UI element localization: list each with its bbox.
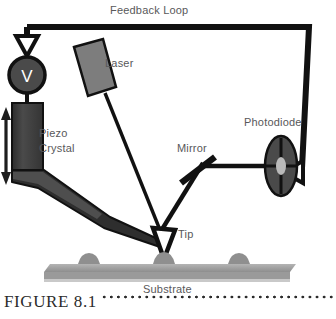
figure-caption-row: FIGURE 8.1 (4, 292, 336, 316)
substrate-slab-edge (44, 279, 290, 282)
piezo-crystal-label-line2: Crystal (39, 142, 75, 154)
figure-caption-leader-dots (102, 290, 336, 304)
substrate-bump-center (153, 252, 175, 264)
piezo-motion-arrow-head-up (1, 107, 11, 120)
figure-container: Feedback Loop V (0, 0, 336, 319)
feedback-arrowhead-down-icon (16, 36, 38, 56)
mirror-label: Mirror (177, 142, 207, 154)
piezo-crystal-body (12, 103, 43, 175)
voltage-source-group: V (9, 57, 45, 103)
mirror-group (181, 157, 215, 183)
substrate-slab-top (44, 264, 296, 272)
piezo-motion-arrow-icon (1, 107, 11, 185)
substrate-group (44, 252, 296, 282)
photodiode-label: Photodiode (244, 116, 302, 128)
photodiode-active-spot (276, 157, 286, 175)
mirror-surface (181, 157, 215, 183)
cantilever-group (12, 170, 160, 247)
piezo-motion-arrow-head-down (1, 172, 11, 185)
substrate-bump-right (228, 253, 250, 264)
feedback-loop-label: Feedback Loop (110, 4, 188, 16)
substrate-bump-left (78, 253, 100, 264)
piezo-crystal-label-line1: Piezo (39, 127, 68, 139)
substrate-slab-front (44, 272, 290, 279)
figure-caption-label: FIGURE 8.1 (4, 292, 97, 312)
photodiode-group (265, 136, 297, 196)
afm-schematic-diagram: Feedback Loop V (0, 0, 336, 319)
voltage-symbol-label: V (21, 67, 33, 86)
laser-incident-beam (105, 93, 160, 230)
tip-label: Tip (178, 228, 193, 240)
laser-label: Laser (105, 57, 134, 69)
